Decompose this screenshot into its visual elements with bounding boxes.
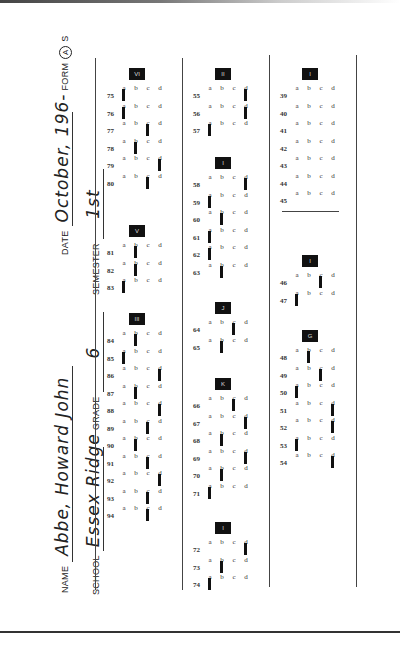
option-b[interactable]: b — [306, 137, 312, 145]
option-c[interactable]: c — [231, 84, 237, 92]
option-d[interactable]: d — [243, 573, 249, 581]
option-b[interactable]: b — [219, 191, 225, 199]
option-c[interactable]: c — [231, 556, 237, 564]
option-b[interactable]: b — [133, 469, 139, 477]
option-c[interactable]: c — [231, 482, 237, 490]
option-a[interactable]: a — [121, 137, 127, 145]
option-a[interactable]: a — [294, 119, 300, 127]
option-c[interactable]: c — [318, 399, 324, 407]
option-a[interactable]: a — [207, 261, 213, 269]
option-c[interactable]: c — [145, 102, 151, 110]
option-d[interactable]: d — [157, 329, 163, 337]
option-c[interactable]: c — [145, 154, 151, 162]
option-c[interactable]: c — [145, 137, 151, 145]
option-b[interactable]: b — [133, 364, 139, 372]
option-d[interactable]: d — [330, 289, 336, 297]
option-d[interactable]: d — [330, 271, 336, 279]
option-a[interactable]: a — [207, 102, 213, 110]
option-c[interactable]: c — [318, 381, 324, 389]
option-d[interactable]: d — [157, 417, 163, 425]
option-c[interactable]: c — [231, 173, 237, 181]
option-c[interactable]: c — [145, 276, 151, 284]
option-c[interactable]: c — [145, 364, 151, 372]
option-c[interactable]: c — [318, 172, 324, 180]
option-b[interactable]: b — [219, 482, 225, 490]
option-c[interactable]: c — [145, 469, 151, 477]
option-b[interactable]: b — [306, 399, 312, 407]
option-d[interactable]: d — [330, 84, 336, 92]
option-d[interactable]: d — [243, 191, 249, 199]
option-a[interactable]: a — [294, 271, 300, 279]
option-a[interactable]: a — [121, 417, 127, 425]
option-c[interactable]: c — [231, 191, 237, 199]
option-a[interactable]: a — [294, 84, 300, 92]
option-b[interactable]: b — [306, 434, 312, 442]
option-d[interactable]: d — [157, 434, 163, 442]
option-a[interactable]: a — [121, 119, 127, 127]
option-c[interactable]: c — [145, 84, 151, 92]
option-a[interactable]: a — [294, 416, 300, 424]
option-d[interactable]: d — [157, 487, 163, 495]
option-c[interactable]: c — [145, 347, 151, 355]
option-d[interactable]: d — [157, 119, 163, 127]
option-d[interactable]: d — [157, 172, 163, 180]
option-c[interactable]: c — [231, 119, 237, 127]
option-d[interactable]: d — [330, 137, 336, 145]
option-a[interactable]: a — [121, 329, 127, 337]
option-a[interactable]: a — [121, 259, 127, 267]
option-d[interactable]: d — [330, 364, 336, 372]
option-a[interactable]: a — [207, 538, 213, 546]
option-b[interactable]: b — [306, 172, 312, 180]
option-c[interactable]: c — [318, 119, 324, 127]
option-b[interactable]: b — [306, 189, 312, 197]
option-a[interactable]: a — [207, 318, 213, 326]
option-d[interactable]: d — [330, 346, 336, 354]
option-c[interactable]: c — [145, 382, 151, 390]
option-c[interactable]: c — [145, 259, 151, 267]
option-c[interactable]: c — [318, 102, 324, 110]
option-b[interactable]: b — [306, 364, 312, 372]
option-d[interactable]: d — [157, 259, 163, 267]
option-b[interactable]: b — [306, 102, 312, 110]
option-b[interactable]: b — [219, 119, 225, 127]
option-a[interactable]: a — [121, 382, 127, 390]
option-d[interactable]: d — [243, 243, 249, 251]
option-b[interactable]: b — [133, 154, 139, 162]
option-c[interactable]: c — [318, 434, 324, 442]
option-c[interactable]: c — [145, 329, 151, 337]
option-d[interactable]: d — [243, 226, 249, 234]
option-d[interactable]: d — [157, 452, 163, 460]
option-c[interactable]: c — [231, 208, 237, 216]
option-b[interactable]: b — [133, 119, 139, 127]
option-c[interactable]: c — [318, 346, 324, 354]
option-a[interactable]: a — [207, 394, 213, 402]
option-a[interactable]: a — [121, 469, 127, 477]
option-b[interactable]: b — [306, 119, 312, 127]
option-d[interactable]: d — [157, 276, 163, 284]
option-b[interactable]: b — [133, 102, 139, 110]
option-c[interactable]: c — [318, 137, 324, 145]
option-a[interactable]: a — [294, 172, 300, 180]
option-a[interactable]: a — [121, 487, 127, 495]
option-a[interactable]: a — [121, 434, 127, 442]
option-d[interactable]: d — [243, 318, 249, 326]
option-d[interactable]: d — [157, 84, 163, 92]
option-d[interactable]: d — [157, 382, 163, 390]
option-b[interactable]: b — [219, 84, 225, 92]
option-d[interactable]: d — [157, 241, 163, 249]
option-b[interactable]: b — [306, 154, 312, 162]
option-a[interactable]: a — [207, 208, 213, 216]
option-c[interactable]: c — [318, 154, 324, 162]
option-b[interactable]: b — [133, 504, 139, 512]
option-c[interactable]: c — [318, 451, 324, 459]
option-d[interactable]: d — [157, 137, 163, 145]
option-a[interactable]: a — [294, 346, 300, 354]
option-a[interactable]: a — [121, 241, 127, 249]
option-a[interactable]: a — [294, 399, 300, 407]
option-b[interactable]: b — [219, 243, 225, 251]
option-c[interactable]: c — [231, 412, 237, 420]
option-a[interactable]: a — [207, 464, 213, 472]
option-a[interactable]: a — [121, 504, 127, 512]
option-d[interactable]: d — [243, 261, 249, 269]
option-d[interactable]: d — [243, 556, 249, 564]
